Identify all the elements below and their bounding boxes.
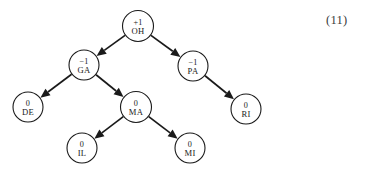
arrow-head-icon xyxy=(97,47,107,56)
arrow-head-icon xyxy=(170,48,180,57)
tree-edge-ma-il xyxy=(94,117,123,139)
node-label: GA xyxy=(77,65,91,75)
tree-node-mi[interactable]: 0MI xyxy=(175,133,205,163)
node-label: IL xyxy=(78,148,87,158)
edge-line xyxy=(102,117,123,133)
figure-container: +1OH−1GA−1PA0DE0MA0RI0IL0MI (11) xyxy=(0,0,369,173)
arrow-head-icon xyxy=(94,130,104,139)
tree-edge-oh-ga xyxy=(97,35,125,56)
tree-edge-oh-pa xyxy=(151,35,181,56)
arrow-head-icon xyxy=(168,130,178,139)
tree-node-de[interactable]: 0DE xyxy=(13,92,43,122)
edge-line xyxy=(149,117,170,133)
arrow-head-icon xyxy=(40,89,50,98)
node-label: MA xyxy=(129,107,144,117)
edge-line xyxy=(205,76,227,93)
edge-line xyxy=(96,75,116,91)
edge-layer xyxy=(40,35,234,138)
node-label: PA xyxy=(188,66,199,76)
tree-edge-ga-ma xyxy=(96,75,123,97)
tree-edge-ma-mi xyxy=(149,117,178,139)
edge-line xyxy=(104,35,125,50)
tree-node-ri[interactable]: 0RI xyxy=(231,94,261,124)
tree-node-pa[interactable]: −1PA xyxy=(178,51,208,81)
node-label: MI xyxy=(184,148,195,158)
tree-node-il[interactable]: 0IL xyxy=(67,133,97,163)
tree-node-oh[interactable]: +1OH xyxy=(123,11,154,42)
tree-edge-pa-ri xyxy=(205,76,234,99)
node-label: OH xyxy=(131,26,144,36)
edge-line xyxy=(48,74,72,92)
tree-node-ga[interactable]: −1GA xyxy=(69,50,99,80)
tree-edge-ga-de xyxy=(40,74,71,97)
edge-line xyxy=(151,35,173,51)
node-label: RI xyxy=(241,109,250,119)
tree-diagram-canvas: +1OH−1GA−1PA0DE0MA0RI0IL0MI xyxy=(0,0,369,173)
equation-number: (11) xyxy=(326,13,348,28)
node-label: DE xyxy=(22,107,34,117)
node-layer: +1OH−1GA−1PA0DE0MA0RI0IL0MI xyxy=(13,11,261,164)
tree-node-ma[interactable]: 0MA xyxy=(121,92,152,123)
